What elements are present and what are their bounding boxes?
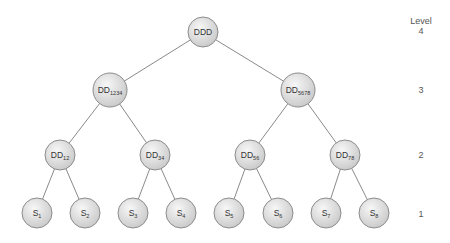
node-label-subscript: 6 <box>279 213 282 219</box>
node-label-subscript: 5 <box>230 213 233 219</box>
node-label-subscript: 1234 <box>110 90 122 96</box>
node-label-subscript: 3 <box>134 213 137 219</box>
node-dd78: DD78 <box>330 140 360 170</box>
level-label-3: 3 <box>418 85 423 95</box>
node-label-subscript: 56 <box>253 155 259 161</box>
node-label-subscript: 12 <box>63 155 69 161</box>
node-s7: S7 <box>311 198 341 228</box>
node-s4: S4 <box>166 198 196 228</box>
node-label-base: DD <box>241 150 253 160</box>
node-label-subscript: 1 <box>38 213 41 219</box>
level-header: Level <box>410 16 432 26</box>
tree-diagram: DDDDD1234DD5678DD12DD34DD56DD78S1S2S3S4S… <box>0 0 450 243</box>
node-label-base: DD <box>98 85 110 95</box>
node-s2: S2 <box>70 198 100 228</box>
level-label-1: 1 <box>418 209 423 219</box>
node-label-subscript: 5678 <box>298 90 310 96</box>
node-label-subscript: 78 <box>348 155 354 161</box>
node-label-subscript: 2 <box>86 213 89 219</box>
edges <box>37 32 374 213</box>
node-s1: S1 <box>22 198 52 228</box>
node-ddd: DDD <box>188 17 218 47</box>
node-s5: S5 <box>214 198 244 228</box>
node-label-base: DD <box>286 85 298 95</box>
node-s3: S3 <box>118 198 148 228</box>
node-label-base: DD <box>336 150 348 160</box>
node-label-subscript: 4 <box>182 213 185 219</box>
node-label-subscript: 8 <box>375 213 378 219</box>
node-label-subscript: 34 <box>158 155 164 161</box>
node-label-subscript: 7 <box>327 213 330 219</box>
node-dd5678: DD5678 <box>281 73 315 107</box>
node-dd56: DD56 <box>235 140 265 170</box>
level-label-4: 4 <box>418 26 423 36</box>
level-axis: Level 4321 <box>410 16 432 219</box>
node-dd34: DD34 <box>140 140 170 170</box>
node-s8: S8 <box>359 198 389 228</box>
node-label: DDD <box>194 27 212 37</box>
level-label-2: 2 <box>418 150 423 160</box>
node-label-base: DDD <box>194 27 212 37</box>
node-label-base: DD <box>51 150 63 160</box>
nodes: DDDDD1234DD5678DD12DD34DD56DD78S1S2S3S4S… <box>22 17 389 228</box>
node-dd1234: DD1234 <box>93 73 127 107</box>
node-dd12: DD12 <box>45 140 75 170</box>
node-s6: S6 <box>263 198 293 228</box>
node-label-base: DD <box>146 150 158 160</box>
